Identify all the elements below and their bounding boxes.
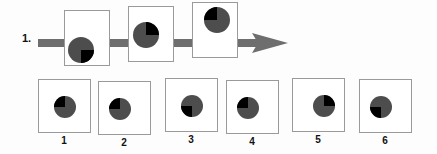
sequence-cell-1 [64,10,110,66]
answer-option-2-label: 2 [96,137,152,148]
answer-option-4-label: 4 [224,136,280,147]
question-number: 1. [22,32,31,44]
answer-option-6-label: 6 [357,135,413,146]
pie-circle-option-2 [108,97,132,121]
answer-option-5-box[interactable] [292,78,345,132]
answer-options-row: 1 2 3 4 5 [0,76,437,154]
pie-circle-sequence-2 [132,21,160,49]
answer-option-1-label: 1 [36,135,92,146]
pie-circle-sequence-3 [203,6,231,34]
sequence-row: 1. [0,0,437,76]
answer-option-5-label: 5 [290,134,346,145]
answer-option-4[interactable]: 4 [224,80,280,147]
pie-circle-sequence-1 [67,36,95,64]
answer-option-1[interactable]: 1 [36,79,92,146]
answer-option-3-label: 3 [163,134,219,145]
answer-option-2-box[interactable] [98,81,151,135]
answer-option-6[interactable]: 6 [357,79,413,146]
pie-circle-option-6 [369,95,393,119]
puzzle-root: 1. 1 2 [0,0,437,154]
answer-option-3[interactable]: 3 [163,78,219,145]
pie-circle-option-3 [180,94,204,118]
answer-option-1-box[interactable] [38,79,91,133]
answer-option-6-box[interactable] [359,79,412,133]
answer-option-5[interactable]: 5 [290,78,346,145]
answer-option-2[interactable]: 2 [96,81,152,148]
pie-circle-option-1 [53,95,77,119]
pie-circle-option-5 [312,94,336,118]
pie-circle-option-4 [236,96,260,120]
sequence-cell-2 [128,6,174,62]
answer-option-3-box[interactable] [165,78,218,132]
sequence-cell-3 [192,2,238,58]
answer-option-4-box[interactable] [226,80,279,134]
